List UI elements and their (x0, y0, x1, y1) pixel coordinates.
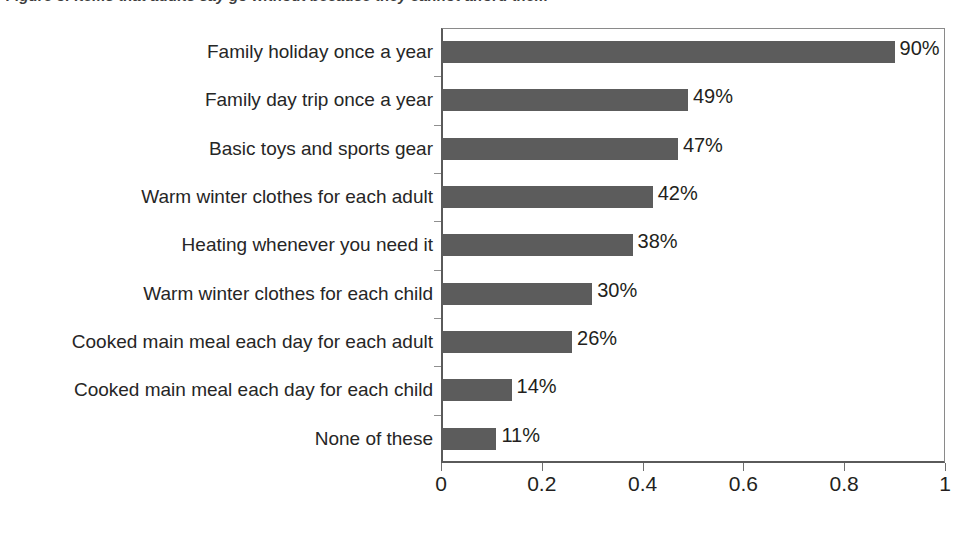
category-label: Cooked main meal each day for each child (0, 379, 433, 401)
x-axis-tick (743, 463, 744, 471)
category-label: None of these (0, 428, 433, 450)
bar-row: 11% (441, 415, 945, 463)
bar-value-label: 47% (683, 134, 723, 156)
category-label: Warm winter clothes for each adult (0, 186, 433, 208)
bar (441, 89, 688, 111)
bar (441, 428, 496, 450)
x-axis-tick (945, 463, 946, 471)
bar (441, 283, 592, 305)
bar-value-label: 38% (638, 230, 678, 252)
x-axis-tick (542, 463, 543, 471)
y-axis-tick (434, 415, 441, 416)
category-label: Family day trip once a year (0, 89, 433, 111)
y-axis-tick (434, 125, 441, 126)
x-axis-tick-label: 0.2 (502, 471, 582, 497)
bar-row: 42% (441, 173, 945, 221)
bar-value-label: 42% (658, 182, 698, 204)
x-axis-tick (844, 463, 845, 471)
x-axis-tick-label: 1 (905, 471, 976, 497)
x-axis-tick-label: 0.6 (703, 471, 783, 497)
y-axis-tick (434, 76, 441, 77)
bar-row: 38% (441, 221, 945, 269)
bar (441, 331, 572, 353)
category-label: Heating whenever you need it (0, 234, 433, 256)
y-axis-tick (434, 221, 441, 222)
category-label: Warm winter clothes for each child (0, 283, 433, 305)
y-axis-tick (434, 366, 441, 367)
bar-value-label: 30% (597, 279, 637, 301)
category-label: Family holiday once a year (0, 41, 433, 63)
y-axis-tick (434, 270, 441, 271)
bar-chart: 90%49%47%42%38%30%26%14%11% Family holid… (0, 0, 976, 534)
bar (441, 41, 895, 63)
bar-row: 90% (441, 28, 945, 76)
bar-row: 14% (441, 366, 945, 414)
bar-row: 47% (441, 125, 945, 173)
bar-row: 49% (441, 76, 945, 124)
x-axis-tick (643, 463, 644, 471)
x-axis-tick-label: 0.4 (603, 471, 683, 497)
bar-row: 30% (441, 270, 945, 318)
y-axis-tick (434, 318, 441, 319)
bar (441, 138, 678, 160)
bar-value-label: 49% (693, 85, 733, 107)
category-label: Cooked main meal each day for each adult (0, 331, 433, 353)
category-label: Basic toys and sports gear (0, 138, 433, 160)
bar-value-label: 14% (517, 375, 557, 397)
y-axis-tick (434, 173, 441, 174)
bar-value-label: 26% (577, 327, 617, 349)
bar (441, 379, 512, 401)
bar (441, 186, 653, 208)
bar-value-label: 90% (900, 37, 940, 59)
bar (441, 234, 633, 256)
x-axis-tick-label: 0.8 (804, 471, 884, 497)
x-axis-tick-label: 0 (401, 471, 481, 497)
bar-row: 26% (441, 318, 945, 366)
x-axis-tick (441, 463, 442, 471)
bar-value-label: 11% (501, 424, 540, 446)
